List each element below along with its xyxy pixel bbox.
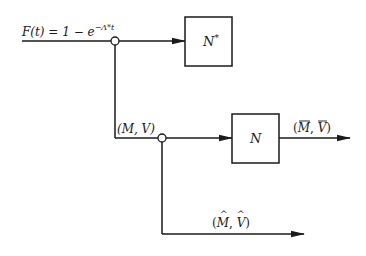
output-bar-label: (M, V) bbox=[293, 121, 331, 135]
signal-mv-label: (M, V) bbox=[117, 122, 155, 136]
split-junction-2 bbox=[158, 134, 166, 142]
hat-v: ^ bbox=[237, 209, 245, 219]
block-n-label: N bbox=[249, 131, 262, 146]
hat-m: ^ bbox=[220, 209, 228, 219]
split-junction-1 bbox=[111, 37, 119, 45]
block-diagram: F(t) = 1 − e−Λ*t N* (M, V) N (M, V) (M, … bbox=[0, 0, 366, 256]
input-function-label: F(t) = 1 − e−Λ*t bbox=[21, 23, 115, 39]
